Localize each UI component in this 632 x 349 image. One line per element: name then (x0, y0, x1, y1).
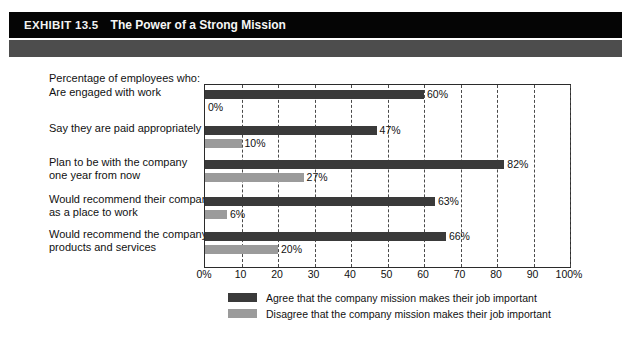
bar-value-agree-0: 60% (427, 90, 448, 99)
legend-item-1[interactable]: Disagree that the company mission makes … (228, 307, 558, 320)
bar-value-disagree-3: 6% (230, 210, 245, 219)
x-tick-label-10: 10 (235, 268, 247, 280)
gridline-100 (570, 85, 571, 267)
legend-swatch-0 (228, 293, 257, 302)
bar-agree-3 (205, 197, 435, 206)
plot-area: 60%0%47%10%82%27%63%6%66%20% (204, 84, 571, 268)
bar-value-agree-4: 66% (449, 232, 470, 241)
x-tick-label-20: 20 (271, 268, 283, 280)
x-tick-label-100: 100% (556, 268, 583, 280)
bar-disagree-2 (205, 173, 304, 182)
chart-legend: Agree that the company mission makes the… (228, 291, 558, 323)
x-tick-label-30: 30 (308, 268, 320, 280)
category-label-line: Are engaged with work (49, 86, 161, 99)
legend-item-0[interactable]: Agree that the company mission makes the… (228, 291, 558, 304)
x-tick-label-60: 60 (417, 268, 429, 280)
category-label-line: Say they are paid appropriately (49, 122, 201, 135)
category-label-line: Would recommend the company's (49, 228, 215, 241)
bar-value-agree-3: 63% (438, 197, 459, 206)
bar-value-agree-1: 47% (380, 126, 401, 135)
bar-agree-0 (205, 90, 424, 99)
plot-inner: 60%0%47%10%82%27%63%6%66%20% (205, 85, 570, 267)
category-label-1: Say they are paid appropriately (49, 122, 201, 135)
bar-value-disagree-1: 10% (245, 139, 266, 148)
exhibit-header-bar: EXHIBIT 13.5 The Power of a Strong Missi… (9, 12, 622, 38)
bar-disagree-1 (205, 139, 242, 148)
x-tick-label-0: 0% (196, 268, 211, 280)
gridline-80 (497, 85, 498, 267)
category-label-3: Would recommend their companyas a place … (49, 193, 213, 219)
legend-label-1: Disagree that the company mission makes … (266, 308, 551, 320)
bar-value-disagree-0: 0% (208, 103, 223, 112)
exhibit-number: EXHIBIT 13.5 (24, 19, 99, 31)
legend-swatch-1 (228, 309, 257, 318)
x-axis-tick-labels: 0%102030405060708090100% (204, 268, 571, 284)
bar-value-agree-2: 82% (507, 160, 528, 169)
exhibit-title: The Power of a Strong Mission (111, 18, 286, 32)
bar-value-disagree-4: 20% (281, 245, 302, 254)
category-label-2: Plan to be with the companyone year from… (49, 156, 187, 182)
category-label-0: Are engaged with work (49, 86, 161, 99)
legend-label-0: Agree that the company mission makes the… (266, 292, 537, 304)
category-label-line: one year from now (49, 169, 187, 182)
bar-disagree-3 (205, 210, 227, 219)
bar-value-disagree-2: 27% (307, 173, 328, 182)
x-tick-label-90: 90 (527, 268, 539, 280)
exhibit-accent-band (9, 40, 622, 57)
x-tick-label-80: 80 (490, 268, 502, 280)
category-axis-labels: Are engaged with workSay they are paid a… (49, 57, 204, 277)
gridline-90 (534, 85, 535, 267)
category-label-line: products and services (49, 241, 215, 254)
category-label-4: Would recommend the company'sproducts an… (49, 228, 215, 254)
bar-agree-1 (205, 126, 377, 135)
category-label-line: Would recommend their company (49, 193, 213, 206)
bar-disagree-4 (205, 245, 278, 254)
bar-agree-2 (205, 160, 504, 169)
x-tick-label-50: 50 (381, 268, 393, 280)
figure-body: Percentage of employees who: Are engaged… (0, 57, 632, 349)
x-tick-label-40: 40 (344, 268, 356, 280)
category-label-line: as a place to work (49, 206, 213, 219)
category-label-line: Plan to be with the company (49, 156, 187, 169)
bar-agree-4 (205, 232, 446, 241)
x-tick-label-70: 70 (454, 268, 466, 280)
